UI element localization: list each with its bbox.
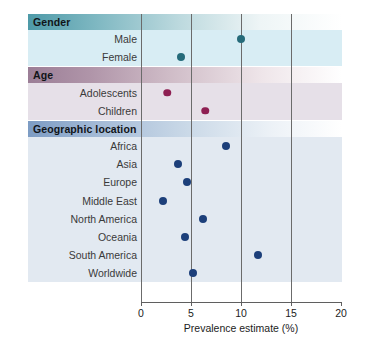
data-point <box>159 197 167 205</box>
tick-mark <box>291 302 292 306</box>
tick-label: 15 <box>285 307 297 319</box>
tick-label: 0 <box>138 307 144 319</box>
data-point <box>201 107 209 115</box>
row-label: Adolescents <box>0 87 137 99</box>
row-label: Africa <box>0 140 137 152</box>
tick-mark <box>191 302 192 306</box>
data-point <box>183 178 191 186</box>
tick-mark <box>141 302 142 306</box>
row-label: Asia <box>0 158 137 170</box>
x-axis-title: Prevalence estimate (%) <box>141 322 341 334</box>
tick-label: 20 <box>335 307 347 319</box>
data-point <box>237 35 245 43</box>
row-label: Europe <box>0 176 137 188</box>
tick-mark <box>241 302 242 306</box>
tick-mark <box>341 302 342 306</box>
plot-area <box>141 14 340 302</box>
y-axis-spine <box>141 14 142 302</box>
row-label: Children <box>0 105 137 117</box>
row-label: Oceania <box>0 231 137 243</box>
gridline-15 <box>291 14 292 302</box>
data-point <box>177 53 185 61</box>
row-label: Female <box>0 51 137 63</box>
data-point <box>199 215 207 223</box>
tick-label: 5 <box>188 307 194 319</box>
gridline-10 <box>241 14 242 302</box>
data-point <box>181 233 189 241</box>
data-point <box>222 142 230 150</box>
row-label: South America <box>0 249 137 261</box>
row-label: North America <box>0 213 137 225</box>
data-point <box>189 269 197 277</box>
data-point <box>163 89 171 97</box>
data-point <box>254 251 262 259</box>
row-label: Worldwide <box>0 267 137 279</box>
row-label: Male <box>0 33 137 45</box>
tick-label: 10 <box>235 307 247 319</box>
data-point <box>174 160 182 168</box>
row-label: Middle East <box>0 195 137 207</box>
prevalence-dot-chart: GenderAgeGeographic location MaleFemaleA… <box>0 0 367 354</box>
gridline-5 <box>191 14 192 302</box>
